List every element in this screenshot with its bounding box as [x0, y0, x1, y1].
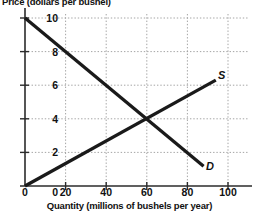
demand-curve: [25, 18, 204, 166]
plot-area: [0, 0, 259, 217]
y-tick-label-2: 2: [38, 146, 58, 158]
vertical-gridlines: [66, 14, 228, 186]
y-tick-label-4: 4: [38, 113, 58, 125]
x-tick-label-0: 0: [10, 186, 40, 198]
x-tick-label-100: 100: [213, 186, 243, 198]
x-axis-title: Quantity (millions of bushels per year): [0, 200, 259, 211]
x-tick-label-80: 80: [172, 186, 202, 198]
y-tick-label-10: 10: [38, 12, 58, 24]
x-tick-label-20: 20: [51, 186, 81, 198]
x-tick-label-60: 60: [132, 186, 162, 198]
supply-curve-label: S: [218, 69, 225, 81]
supply-demand-chart: Price (dollars per bushel): [0, 0, 259, 217]
y-tick-label-6: 6: [38, 79, 58, 91]
horizontal-gridlines: [25, 18, 248, 152]
y-tick-label-8: 8: [38, 46, 58, 58]
demand-curve-label: D: [206, 160, 214, 172]
x-tick-label-40: 40: [91, 186, 121, 198]
